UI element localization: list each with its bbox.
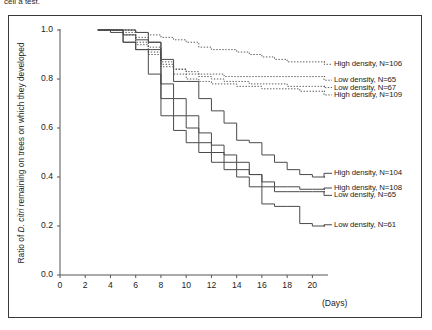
series-leader-3 <box>324 91 332 95</box>
series-leader-7 <box>324 225 332 226</box>
leader-layer <box>324 62 332 226</box>
axes-layer <box>57 29 328 278</box>
y-tick-label: 0.8 <box>27 74 53 83</box>
series-label-hd106: High density, N=106 <box>334 59 402 68</box>
series-label-ld61: Low density, N=61 <box>334 220 396 229</box>
x-tick-label: 10 <box>176 281 196 290</box>
y-tick-label: 0.2 <box>27 221 53 230</box>
y-tick-label: 0.6 <box>27 123 53 132</box>
series-leader-2 <box>324 86 332 87</box>
series-label-ld65b: Low density, N=65 <box>334 190 396 199</box>
series-leader-1 <box>324 77 332 81</box>
series-leader-4 <box>324 173 332 177</box>
x-tick-label: 18 <box>277 281 297 290</box>
series-leader-5 <box>324 188 332 189</box>
series-label-hd104: High density, N=104 <box>334 168 402 177</box>
x-tick-label: 0 <box>50 281 70 290</box>
x-tick-label: 8 <box>151 281 171 290</box>
x-tick-label: 2 <box>75 281 95 290</box>
series-label-hd109: High density, N=109 <box>334 90 402 99</box>
series-line-1 <box>98 30 325 77</box>
x-tick-label: 16 <box>252 281 272 290</box>
series-line-3 <box>98 30 325 91</box>
x-tick-label: 20 <box>302 281 322 290</box>
figure-page: cell a test. Ratio of D. citri remaining… <box>0 0 432 330</box>
series-layer <box>98 30 325 226</box>
x-axis-title: (Days) <box>322 298 347 308</box>
x-tick-label: 6 <box>126 281 146 290</box>
y-tick-label: 1.0 <box>27 25 53 34</box>
x-tick-label: 4 <box>100 281 120 290</box>
x-tick-label: 12 <box>201 281 221 290</box>
series-line-2 <box>98 30 325 86</box>
series-leader-6 <box>324 192 332 196</box>
series-line-7 <box>98 30 325 226</box>
y-tick-label: 0.0 <box>27 270 53 279</box>
x-tick-label: 14 <box>227 281 247 290</box>
series-leader-0 <box>324 62 332 64</box>
y-tick-label: 0.4 <box>27 172 53 181</box>
